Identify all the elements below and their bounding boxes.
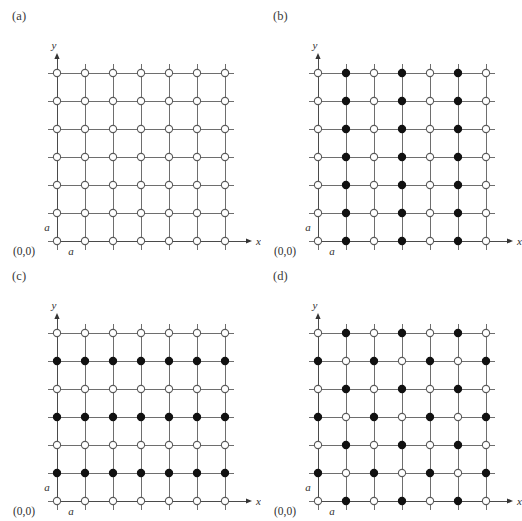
lattice-site-open <box>165 69 172 76</box>
lattice-site-open <box>193 181 200 188</box>
lattice-site-open <box>221 69 228 76</box>
lattice-site-filled <box>398 125 405 132</box>
lattice-site-open <box>482 181 489 188</box>
lattice-site-open <box>398 469 405 476</box>
lattice-site-open <box>370 125 377 132</box>
lattice-site-filled <box>53 469 60 476</box>
lattice-site-open <box>426 441 433 448</box>
lattice-site-filled <box>221 357 228 364</box>
lattice-site-open <box>137 97 144 104</box>
lattice-site-filled <box>370 357 377 364</box>
lattice-site-filled <box>398 153 405 160</box>
x-axis-arrow-icon <box>507 238 513 243</box>
lattice-site-open <box>53 497 60 504</box>
lattice-site-filled <box>482 469 489 476</box>
lattice-site-open <box>165 209 172 216</box>
lattice-site-filled <box>454 329 461 336</box>
lattice-site-filled <box>193 469 200 476</box>
lattice-site-open <box>482 385 489 392</box>
panel-b: (b) yx(0,0)aa <box>261 0 522 260</box>
lattice-site-filled <box>109 469 116 476</box>
lattice-site-open <box>314 329 321 336</box>
lattice-site-open <box>53 153 60 160</box>
panel-c: (c) yx(0,0)aa <box>0 260 261 520</box>
origin-label: (0,0) <box>13 245 35 258</box>
panel-b-lattice: yx(0,0)aa <box>261 0 522 260</box>
lattice-site-open <box>342 357 349 364</box>
lattice-site-open <box>482 441 489 448</box>
lattice-site-open <box>81 153 88 160</box>
lattice-site-open <box>81 441 88 448</box>
lattice-spacing-label-y: a <box>44 481 50 493</box>
lattice-site-open <box>482 97 489 104</box>
lattice-site-open <box>137 153 144 160</box>
lattice-site-open <box>221 385 228 392</box>
lattice-site-open <box>221 97 228 104</box>
lattice-site-filled <box>398 69 405 76</box>
lattice-site-open <box>454 469 461 476</box>
lattice-site-filled <box>342 181 349 188</box>
lattice-site-open <box>193 441 200 448</box>
lattice-site-filled <box>109 413 116 420</box>
lattice-spacing-label-y: a <box>44 221 50 233</box>
lattice-site-open <box>53 97 60 104</box>
lattice-site-filled <box>398 209 405 216</box>
lattice-site-open <box>426 497 433 504</box>
lattice-site-open <box>398 357 405 364</box>
lattice-site-filled <box>342 385 349 392</box>
lattice-site-filled <box>314 357 321 364</box>
lattice-site-open <box>193 153 200 160</box>
lattice-site-open <box>53 329 60 336</box>
lattice-site-open <box>109 441 116 448</box>
lattice-site-open <box>426 385 433 392</box>
lattice-site-open <box>109 329 116 336</box>
lattice-site-filled <box>370 469 377 476</box>
lattice-site-open <box>482 329 489 336</box>
lattice-site-filled <box>314 413 321 420</box>
lattice-site-open <box>137 497 144 504</box>
lattice-site-open <box>81 497 88 504</box>
lattice-site-open <box>314 125 321 132</box>
lattice-site-filled <box>398 97 405 104</box>
lattice-site-filled <box>193 413 200 420</box>
lattice-site-filled <box>454 69 461 76</box>
lattice-site-filled <box>53 357 60 364</box>
lattice-site-open <box>193 329 200 336</box>
y-axis-arrow-icon <box>315 53 320 59</box>
lattice-spacing-label-x: a <box>68 245 74 257</box>
y-axis-label: y <box>51 299 57 311</box>
lattice-spacing-label-y: a <box>305 221 311 233</box>
lattice-site-open <box>53 125 60 132</box>
lattice-site-filled <box>454 97 461 104</box>
lattice-site-open <box>482 497 489 504</box>
lattice-site-open <box>426 153 433 160</box>
lattice-site-open <box>81 329 88 336</box>
lattice-site-filled <box>454 237 461 244</box>
lattice-spacing-label-x: a <box>68 505 74 517</box>
lattice-site-open <box>165 153 172 160</box>
lattice-site-filled <box>342 441 349 448</box>
lattice-site-open <box>193 237 200 244</box>
lattice-site-open <box>137 441 144 448</box>
lattice-site-filled <box>342 97 349 104</box>
lattice-site-open <box>53 69 60 76</box>
lattice-site-open <box>193 385 200 392</box>
lattice-site-open <box>81 69 88 76</box>
lattice-site-filled <box>454 441 461 448</box>
lattice-site-open <box>398 413 405 420</box>
lattice-site-open <box>314 153 321 160</box>
x-axis-arrow-icon <box>246 238 252 243</box>
lattice-site-open <box>370 209 377 216</box>
lattice-site-open <box>81 209 88 216</box>
lattice-site-filled <box>342 497 349 504</box>
lattice-site-filled <box>314 469 321 476</box>
lattice-site-filled <box>454 153 461 160</box>
lattice-site-filled <box>454 125 461 132</box>
lattice-site-open <box>454 357 461 364</box>
lattice-site-open <box>109 237 116 244</box>
lattice-figure: (a) yx(0,0)aa (b) yx(0,0)aa (c) yx(0,0)a… <box>0 0 522 521</box>
lattice-site-open <box>53 237 60 244</box>
lattice-site-open <box>482 209 489 216</box>
lattice-site-filled <box>342 329 349 336</box>
lattice-site-open <box>109 153 116 160</box>
